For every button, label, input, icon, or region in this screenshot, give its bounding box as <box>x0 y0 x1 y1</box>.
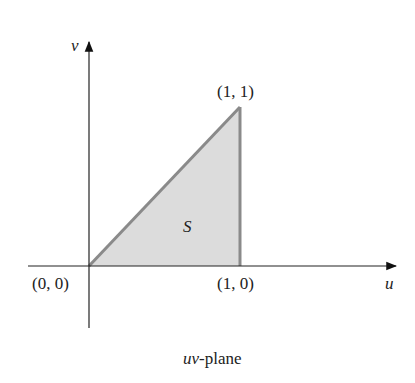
caption-italic: uv <box>183 349 200 368</box>
uv-plane-diagram: v u S (0, 0) (1, 0) (1, 1) uv-plane <box>0 0 415 383</box>
point-1-0-label: (1, 0) <box>217 274 254 293</box>
region-label: S <box>183 217 192 236</box>
point-origin-label: (0, 0) <box>32 274 69 293</box>
u-axis-label: u <box>385 274 394 293</box>
point-1-1-label: (1, 1) <box>217 82 254 101</box>
caption: uv-plane <box>183 349 242 368</box>
caption-rest: -plane <box>199 349 241 368</box>
v-axis-label: v <box>71 36 79 55</box>
